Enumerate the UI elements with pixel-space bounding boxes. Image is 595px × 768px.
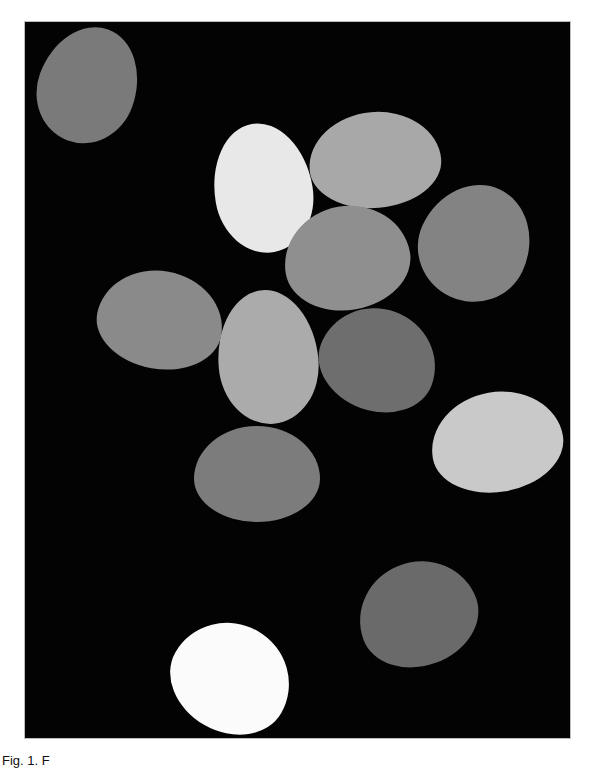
egg-6 bbox=[89, 261, 230, 379]
photo-frame bbox=[25, 22, 570, 738]
egg-1 bbox=[25, 22, 154, 157]
egg-3 bbox=[305, 106, 445, 213]
egg-12 bbox=[151, 601, 311, 738]
figure-caption: Fig. 1. F bbox=[2, 754, 50, 767]
egg-8 bbox=[305, 292, 451, 428]
egg-7 bbox=[212, 286, 323, 428]
egg-9 bbox=[423, 381, 570, 502]
egg-11 bbox=[344, 545, 492, 684]
egg-10 bbox=[194, 426, 320, 522]
